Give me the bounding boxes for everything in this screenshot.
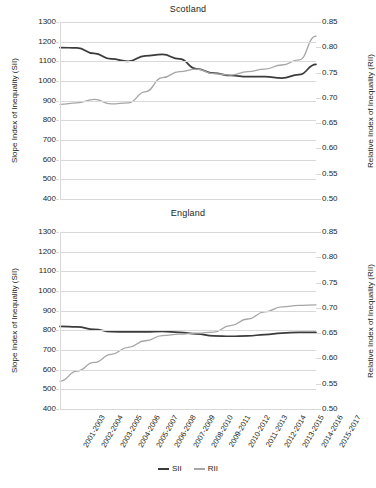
y-axis-left-tick-mark (54, 81, 59, 82)
y-axis-left-tick: 1300 (16, 18, 56, 26)
y-axis-left-tick-mark (54, 330, 59, 331)
y-axis-right-tick: 0.65 (322, 329, 362, 337)
y-axis-left-tick: 1100 (16, 267, 56, 275)
y-axis-left-tick-mark (54, 252, 59, 253)
gridline (60, 140, 316, 141)
right-axis-title-england: Relative Index of Inequality (RII) (366, 264, 375, 378)
y-axis-left-tick-mark (54, 22, 59, 23)
y-axis-left-tick: 700 (16, 346, 56, 354)
y-axis-left-tick: 400 (16, 195, 56, 203)
y-axis-right-tick: 0.75 (322, 69, 362, 77)
y-axis-line (60, 232, 61, 409)
gridline (60, 271, 316, 272)
series-layer-scotland (60, 22, 316, 199)
y-axis-right-tick-mark (316, 199, 321, 200)
y-axis-right-tick-mark (316, 148, 321, 149)
y-axis-right-tick-mark (316, 73, 321, 74)
gridline (60, 22, 316, 23)
gridline (60, 101, 316, 102)
y-axis-right-tick-mark (316, 47, 321, 48)
y-axis-right-tick: 0.65 (322, 119, 362, 127)
line-series-rii (60, 36, 316, 104)
panel-title-england: England (0, 208, 376, 218)
legend-swatch-rii (194, 468, 205, 470)
y-axis-right-tick-mark (316, 384, 321, 385)
series-layer-england (60, 232, 316, 409)
y-axis-right-tick-mark (316, 123, 321, 124)
y-axis-left-tick-mark (54, 199, 59, 200)
y-axis-right-tick: 0.60 (322, 354, 362, 362)
y-axis-right-tick: 0.70 (322, 304, 362, 312)
legend-item-rii[interactable]: RII (194, 464, 218, 473)
left-axis-title-scotland: Slope Index of Inequality (SII) (10, 58, 19, 163)
y-axis-right-tick-mark (316, 174, 321, 175)
y-axis-right-tick-mark (316, 283, 321, 284)
y-axis-left-tick: 900 (16, 307, 56, 315)
y-axis-left-tick: 1100 (16, 57, 56, 65)
y-axis-right-tick: 0.85 (322, 228, 362, 236)
y-axis-left-tick: 400 (16, 405, 56, 413)
gridline (60, 409, 316, 410)
gridline (60, 389, 316, 390)
y-axis-right-tick-mark (316, 98, 321, 99)
gridline (60, 120, 316, 121)
gridline (60, 42, 316, 43)
y-axis-left-tick: 1000 (16, 287, 56, 295)
y-axis-right-tick-mark (316, 333, 321, 334)
y-axis-right-tick: 0.50 (322, 405, 362, 413)
gridline (60, 81, 316, 82)
y-axis-right-tick-mark (316, 358, 321, 359)
y-axis-right-tick-mark (316, 257, 321, 258)
y-axis-left-tick: 500 (16, 175, 56, 183)
y-axis-right-tick-mark (316, 409, 321, 410)
y-axis-right-tick-mark (316, 22, 321, 23)
right-axis-title-scotland: Relative Index of Inequality (RII) (366, 54, 375, 168)
chart-panel-scotland: Scotland Slope Index of Inequality (SII)… (0, 0, 376, 205)
figure-root: Scotland Slope Index of Inequality (SII)… (0, 0, 376, 488)
y-axis-left-tick-mark (54, 120, 59, 121)
plot-area-england (60, 232, 316, 409)
y-axis-right-tick: 0.55 (322, 170, 362, 178)
legend-item-sii[interactable]: SII (158, 464, 182, 473)
y-axis-left-tick-mark (54, 409, 59, 410)
y-axis-left-tick-mark (54, 291, 59, 292)
y-axis-left-tick: 1000 (16, 77, 56, 85)
gridline (60, 160, 316, 161)
gridline (60, 311, 316, 312)
y-axis-left-tick-mark (54, 140, 59, 141)
plot-area-scotland (60, 22, 316, 199)
y-axis-left-tick-mark (54, 42, 59, 43)
y-axis-right-tick: 0.60 (322, 144, 362, 152)
y-axis-right-tick: 0.80 (322, 43, 362, 51)
gridline (60, 330, 316, 331)
gridline (60, 179, 316, 180)
gridline (60, 61, 316, 62)
y-axis-right-tick: 0.50 (322, 195, 362, 203)
gridline (60, 252, 316, 253)
gridline (60, 232, 316, 233)
gridline (60, 199, 316, 200)
y-axis-line (60, 22, 61, 199)
y-axis-right-tick: 0.55 (322, 380, 362, 388)
y-axis-left-tick-mark (54, 61, 59, 62)
y-axis-right-tick: 0.85 (322, 18, 362, 26)
gridline (60, 350, 316, 351)
y-axis-left-tick: 600 (16, 366, 56, 374)
y-axis-right-tick: 0.70 (322, 94, 362, 102)
y-axis-left-tick-mark (54, 389, 59, 390)
y-axis-left-tick-mark (54, 179, 59, 180)
y-axis-left-tick: 1200 (16, 38, 56, 46)
y-axis-left-tick: 1300 (16, 228, 56, 236)
y-axis-left-tick: 800 (16, 326, 56, 334)
y-axis-right-tick-mark (316, 308, 321, 309)
legend-label: RII (208, 464, 218, 473)
y-axis-left-tick-mark (54, 311, 59, 312)
y-axis-left-tick-mark (54, 101, 59, 102)
y-axis-right-tick: 0.80 (322, 253, 362, 261)
gridline (60, 291, 316, 292)
y-axis-left-tick: 600 (16, 156, 56, 164)
y-axis-right-tick: 0.75 (322, 279, 362, 287)
legend-swatch-sii (158, 468, 169, 470)
y-axis-left-tick: 700 (16, 136, 56, 144)
chart-legend: SIIRII (0, 464, 376, 473)
